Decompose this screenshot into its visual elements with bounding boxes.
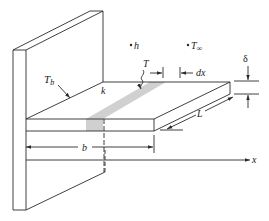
convection-label: h bbox=[134, 40, 139, 51]
thickness-label: δ bbox=[243, 53, 248, 64]
ambient-temp-label: T∞ bbox=[191, 40, 203, 53]
element-width-label: dx bbox=[196, 67, 206, 78]
length-label: L bbox=[196, 108, 203, 119]
local-temp-label: T bbox=[143, 58, 150, 69]
dx-dimension bbox=[150, 67, 193, 78]
axis-label: x bbox=[251, 154, 257, 165]
width-dimension bbox=[26, 135, 154, 153]
base-temp-label: Tb bbox=[44, 73, 54, 87]
thickness-dimension bbox=[234, 66, 259, 108]
conductivity-label: k bbox=[101, 85, 106, 96]
wall bbox=[13, 11, 105, 210]
base-temp-leader bbox=[58, 85, 70, 98]
tinf-dot bbox=[187, 44, 189, 46]
width-label: b bbox=[82, 142, 87, 153]
fin-diagram: Tb k h T∞ T dx δ L b x bbox=[0, 0, 269, 221]
h-dot bbox=[130, 44, 132, 46]
